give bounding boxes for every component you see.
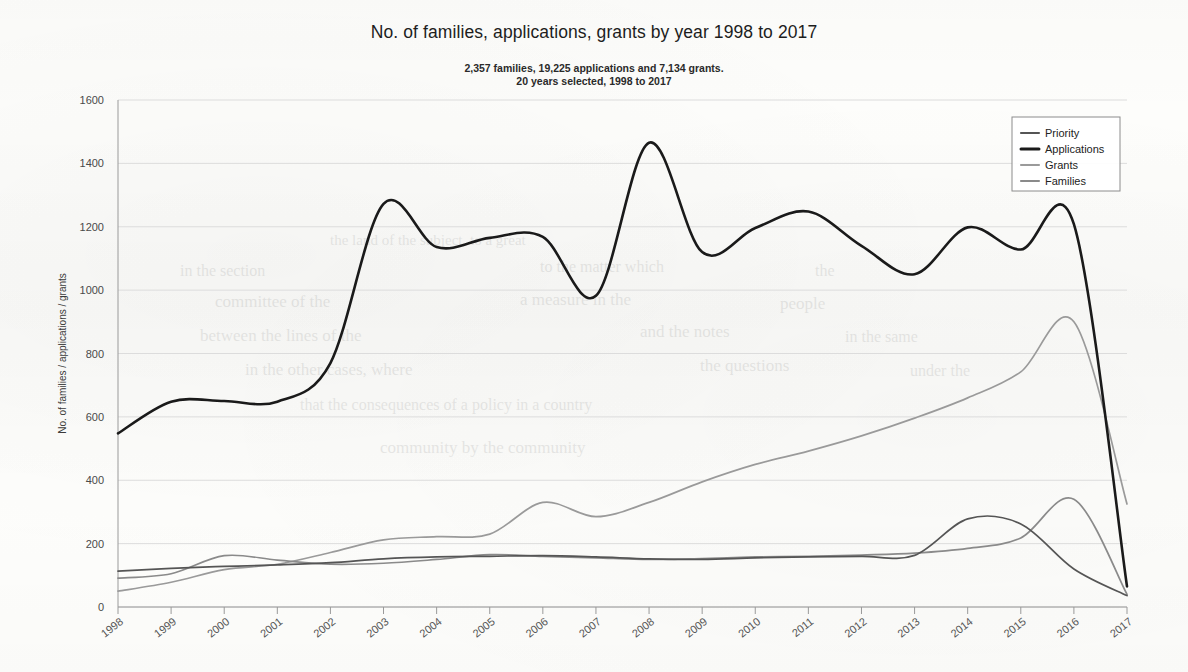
x-tick-label-2004: 2004 <box>417 615 444 640</box>
series-line-priority <box>118 516 1127 596</box>
y-tick-label-800: 800 <box>86 348 104 360</box>
x-tick-label-2002: 2002 <box>311 615 338 640</box>
legend-label-applications[interactable]: Applications <box>1045 143 1105 155</box>
y-tick-label-1200: 1200 <box>80 221 104 233</box>
y-axis-ticks: 02004006008001000120014001600 <box>80 94 104 613</box>
x-tick-label-2000: 2000 <box>205 615 232 640</box>
y-tick-label-600: 600 <box>86 411 104 423</box>
y-tick-label-1400: 1400 <box>80 157 104 169</box>
chart-legend[interactable]: PriorityApplicationsGrantsFamilies <box>1012 117 1120 191</box>
series-lines <box>118 142 1127 595</box>
x-tick-label-2015: 2015 <box>1001 615 1028 640</box>
y-tick-label-1000: 1000 <box>80 284 104 296</box>
legend-label-families[interactable]: Families <box>1045 175 1086 187</box>
y-axis-label: No. of families / applications / grants <box>57 273 68 434</box>
x-tick-label-2010: 2010 <box>736 615 763 640</box>
x-tick-label-2016: 2016 <box>1054 615 1081 640</box>
x-tick-label-2017: 2017 <box>1108 615 1135 640</box>
y-tick-label-200: 200 <box>86 538 104 550</box>
x-tick-label-2011: 2011 <box>790 615 816 639</box>
x-tick-label-2006: 2006 <box>523 615 550 640</box>
y-tick-label-0: 0 <box>98 601 104 613</box>
x-tick-label-2003: 2003 <box>364 615 391 640</box>
x-tick-label-2008: 2008 <box>630 615 657 640</box>
x-tick-label-2005: 2005 <box>470 615 497 640</box>
x-tick-label-1999: 1999 <box>152 615 179 640</box>
line-chart: 02004006008001000120014001600 1998199920… <box>0 0 1188 672</box>
y-tick-label-1600: 1600 <box>80 94 104 106</box>
x-tick-label-2007: 2007 <box>576 615 603 640</box>
series-line-grants <box>118 317 1127 591</box>
legend-label-grants[interactable]: Grants <box>1045 159 1079 171</box>
x-tick-label-2001: 2001 <box>258 615 285 640</box>
x-tick-label-2012: 2012 <box>842 615 869 640</box>
legend-label-priority[interactable]: Priority <box>1045 127 1080 139</box>
y-tick-label-400: 400 <box>86 474 104 486</box>
x-tick-label-2014: 2014 <box>948 615 975 640</box>
x-tick-label-1998: 1998 <box>99 615 126 640</box>
gridlines <box>118 100 1127 607</box>
x-tick-label-2009: 2009 <box>683 615 710 640</box>
series-line-applications <box>118 142 1127 586</box>
x-axis-ticks: 1998199920002001200220032004200520062007… <box>99 607 1135 640</box>
x-tick-label-2013: 2013 <box>895 615 922 640</box>
